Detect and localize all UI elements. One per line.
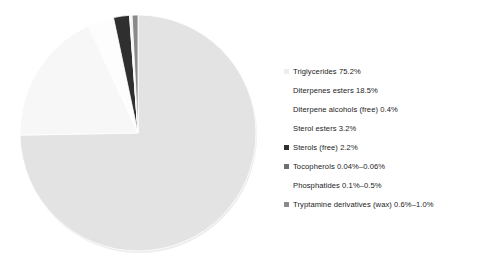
chart-legend: Triglycerides 75.2% Diterpenes esters 18… [284,62,480,214]
legend-item[interactable]: Sterol esters 3.2% [284,119,480,138]
pie-slice-group: Triglycerides 75.2%Diterpenes esters 18.… [20,15,257,253]
legend-swatch-tocopherols [284,164,289,169]
legend-item[interactable]: Diterpene alcohols (free) 0.4% [284,100,480,119]
legend-swatch-tryptamine-derivatives [284,202,289,207]
legend-item[interactable]: Triglycerides 75.2% [284,62,480,81]
legend-label-tocopherols: Tocopherols 0.04%–0.06% [293,157,385,176]
legend-swatch-sterols-free [284,145,289,150]
legend-label-sterols-free: Sterols (free) 2.2% [293,138,358,157]
legend-label-phosphatides: Phosphatides 0.1%–0.5% [293,176,382,195]
legend-label-diterpenes-esters: Diterpenes esters 18.5% [293,81,378,100]
legend-label-tryptamine-derivatives: Tryptamine derivatives (wax) 0.6%–1.0% [293,195,434,214]
legend-item[interactable]: Tryptamine derivatives (wax) 0.6%–1.0% [284,195,480,214]
legend-item[interactable]: Phosphatides 0.1%–0.5% [284,176,480,195]
pie-svg: Triglycerides 75.2%Diterpenes esters 18.… [18,10,260,258]
pie-chart-figure: Triglycerides 75.2%Diterpenes esters 18.… [0,0,484,267]
legend-item[interactable]: Diterpenes esters 18.5% [284,81,480,100]
legend-item[interactable]: Tocopherols 0.04%–0.06% [284,157,480,176]
legend-label-diterpene-alcohols: Diterpene alcohols (free) 0.4% [293,100,398,119]
legend-label-triglycerides: Triglycerides 75.2% [293,62,361,81]
legend-swatch-triglycerides [284,69,289,74]
legend-item[interactable]: Sterols (free) 2.2% [284,138,480,157]
pie-chart-plot-area: Triglycerides 75.2%Diterpenes esters 18.… [18,10,260,258]
legend-label-sterol-esters: Sterol esters 3.2% [293,119,356,138]
